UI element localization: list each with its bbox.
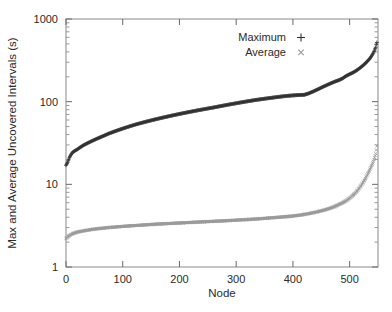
- y-tick-label: 1000: [34, 13, 58, 25]
- chart-container: 1101001000 0100200300400500 Maximum Aver…: [0, 0, 392, 312]
- x-tick-label: 500: [340, 273, 358, 285]
- plot-frame: [66, 19, 378, 267]
- y-tick-label: 100: [40, 96, 58, 108]
- x-tick-label: 0: [63, 273, 69, 285]
- x-axis-title: Node: [208, 287, 236, 299]
- y-tick-label: 1: [52, 261, 58, 273]
- x-tick-label: 100: [114, 273, 132, 285]
- y-tick-label: 10: [46, 178, 58, 190]
- legend-label-average: Average: [245, 46, 286, 58]
- legend-label-maximum: Maximum: [238, 31, 286, 43]
- x-tick-label: 200: [170, 273, 188, 285]
- plot-background: [66, 19, 378, 267]
- x-tick-label: 400: [284, 273, 302, 285]
- chart-svg: 1101001000 0100200300400500 Maximum Aver…: [0, 0, 392, 312]
- x-tick-label: 300: [227, 273, 245, 285]
- y-axis-title: Max and Average Uncovered Intervals (s): [6, 37, 18, 249]
